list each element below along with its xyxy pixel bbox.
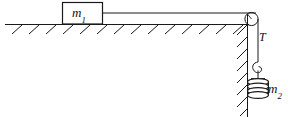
- wall-hatching: [237, 25, 247, 116]
- weight-disc: [248, 92, 269, 99]
- label-hanging-mass-symbol: m: [268, 81, 277, 96]
- physics-diagram-figure: m1 T m2: [0, 0, 288, 117]
- label-block-mass-symbol: m: [72, 5, 81, 20]
- label-hanging-mass: m2: [268, 82, 282, 98]
- pulley-axle-link: [248, 14, 252, 19]
- pulley: [245, 12, 258, 25]
- label-block-mass: m1: [72, 6, 86, 22]
- hook: [251, 62, 265, 79]
- diagram-canvas: [0, 0, 288, 117]
- weight-stack-m2: [248, 79, 269, 99]
- label-hanging-mass-subscript: 2: [277, 91, 281, 101]
- ground-hatching: [12, 25, 243, 34]
- ground-surface: [5, 25, 249, 35]
- label-tension: T: [259, 31, 266, 43]
- label-block-mass-subscript: 1: [81, 15, 85, 25]
